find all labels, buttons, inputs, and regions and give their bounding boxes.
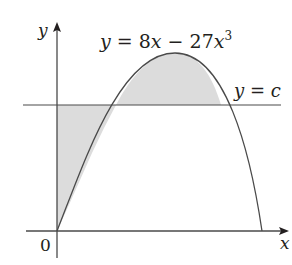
y-axis-label: y bbox=[37, 20, 48, 40]
origin-label: 0 bbox=[40, 235, 51, 255]
diagram: y = 8x − 27x3 y = c y x 0 bbox=[0, 0, 292, 265]
x-axis-label: x bbox=[280, 233, 290, 253]
shaded-region-top bbox=[116, 53, 221, 105]
curve-label: y = 8x − 27x3 bbox=[99, 29, 232, 52]
line-label: y = c bbox=[233, 80, 281, 101]
shaded-region-left bbox=[57, 105, 116, 231]
